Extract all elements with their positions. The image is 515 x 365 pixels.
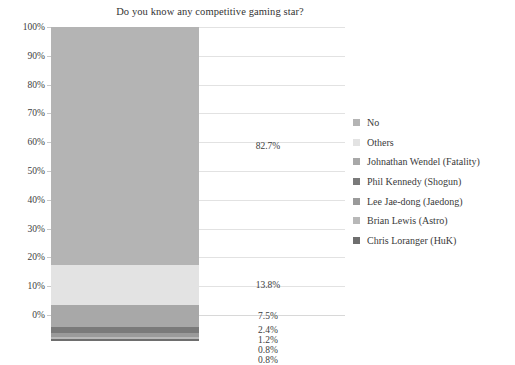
data-label: 13.8%: [238, 280, 298, 290]
legend-swatch-icon: [353, 198, 360, 205]
legend-item-label: Brian Lewis (Astro): [367, 215, 448, 226]
chart-legend: NoOthersJohnathan Wendel (Fatality)Phil …: [353, 113, 513, 250]
legend-item-label: Phil Kennedy (Shogun): [367, 176, 461, 187]
legend-item[interactable]: Brian Lewis (Astro): [353, 211, 513, 231]
bar-segment: [51, 265, 199, 305]
y-axis-tick-label: 40%: [5, 195, 45, 205]
y-axis-tick-label: 30%: [5, 224, 45, 234]
y-axis-tick-label: 70%: [5, 108, 45, 118]
legend-swatch-icon: [353, 237, 360, 244]
legend-item[interactable]: Chris Loranger (HuK): [353, 231, 513, 251]
legend-item[interactable]: No: [353, 113, 513, 133]
legend-item[interactable]: Others: [353, 133, 513, 153]
y-axis-tick-label: 0%: [5, 310, 45, 320]
y-axis-tick-label: 20%: [5, 252, 45, 262]
legend-item[interactable]: Lee Jae-dong (Jaedong): [353, 191, 513, 211]
bar-segment: [51, 27, 199, 265]
data-label: 82.7%: [238, 141, 298, 151]
stacked-bar: [51, 27, 199, 315]
legend-swatch-icon: [353, 178, 360, 185]
legend-item-label: Johnathan Wendel (Fatality): [367, 156, 480, 167]
y-axis-tick-label: 10%: [5, 281, 45, 291]
legend-swatch-icon: [353, 158, 360, 165]
legend-swatch-icon: [353, 139, 360, 146]
bar-segment: [51, 305, 199, 327]
legend-item-label: No: [367, 117, 379, 128]
legend-item-label: Others: [367, 137, 394, 148]
legend-item[interactable]: Johnathan Wendel (Fatality): [353, 152, 513, 172]
bar-segment: [51, 339, 199, 341]
legend-item-label: Lee Jae-dong (Jaedong): [367, 196, 463, 207]
data-label: 0.8%: [238, 355, 298, 365]
data-label: 7.5%: [238, 311, 298, 321]
chart-title: Do you know any competitive gaming star?: [0, 6, 420, 17]
y-axis-tick-label: 60%: [5, 137, 45, 147]
y-axis-tick-labels: 100%90%80%70%60%50%40%30%20%10%0%: [0, 27, 45, 315]
legend-swatch-icon: [353, 217, 360, 224]
legend-item[interactable]: Phil Kennedy (Shogun): [353, 172, 513, 192]
data-label: 0.8%: [238, 345, 298, 355]
y-axis-tick-label: 90%: [5, 51, 45, 61]
legend-swatch-icon: [353, 119, 360, 126]
y-axis-tick-label: 80%: [5, 80, 45, 90]
y-axis-tick-label: 50%: [5, 166, 45, 176]
legend-item-label: Chris Loranger (HuK): [367, 235, 456, 246]
plot-area: [51, 27, 345, 315]
data-label: 1.2%: [238, 335, 298, 345]
y-axis-tick-label: 100%: [5, 22, 45, 32]
bar-segment: [51, 327, 199, 334]
data-label: 2.4%: [238, 325, 298, 335]
